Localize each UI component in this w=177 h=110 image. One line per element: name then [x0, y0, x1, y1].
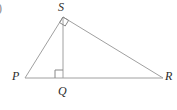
- segment-SR: [63, 17, 163, 78]
- segment-PS: [25, 17, 63, 78]
- vertex-label-Q: Q: [58, 85, 67, 97]
- item-paren-marker: ): [0, 2, 2, 14]
- triangle-sides: [25, 17, 163, 78]
- right-angle-marker-at-Q: [55, 70, 63, 78]
- geometry-figure: ) S P Q R: [0, 0, 177, 110]
- vertex-label-P: P: [12, 70, 19, 82]
- vertex-label-R: R: [165, 70, 172, 82]
- triangle-diagram: [0, 0, 177, 110]
- vertex-label-S: S: [58, 1, 64, 13]
- right-angle-marker-at-S: [60, 17, 69, 26]
